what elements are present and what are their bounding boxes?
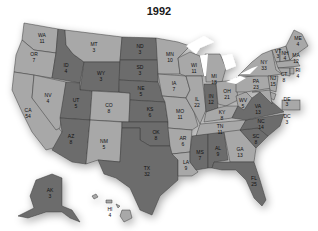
label-DC: DC3 — [283, 113, 291, 125]
state-RI[interactable] — [290, 68, 294, 74]
label-IN: IN12 — [208, 93, 214, 105]
label-NJ: NJ15 — [270, 75, 277, 87]
state-FL[interactable] — [212, 162, 266, 206]
label-HI: HI4 — [108, 206, 113, 218]
label-VA: VA13 — [255, 103, 262, 115]
us-electoral-map: WA11 OR7 CA54 NV4 ID4 MT3 WY3 UT5 AZ8 CO… — [0, 0, 318, 231]
label-CT: CT8 — [281, 71, 288, 83]
label-PA: PA23 — [253, 78, 260, 90]
label-MA: MA12 — [292, 52, 300, 64]
state-AR[interactable] — [168, 128, 192, 154]
label-FL: FL25 — [251, 175, 257, 187]
label-MI: MI18 — [211, 73, 217, 85]
label-RI: RI4 — [296, 67, 301, 79]
label-WI: WI11 — [191, 62, 197, 74]
